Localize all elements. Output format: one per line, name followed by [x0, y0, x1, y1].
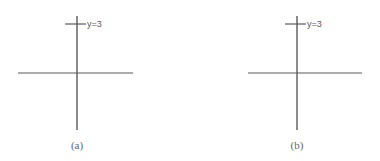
panel-caption-b: (b) — [277, 140, 317, 151]
figure-panel-a: y=3 (a) — [0, 0, 190, 161]
figure-panel-b: y=3 (b) — [190, 0, 380, 161]
y-tick-label: y=3 — [307, 20, 322, 29]
figure-pair: y=3 (a) y=3 (b) — [0, 0, 380, 161]
y-tick-label: y=3 — [87, 20, 102, 29]
axes-diagram-b — [190, 0, 380, 140]
panel-caption-a: (a) — [57, 140, 97, 151]
